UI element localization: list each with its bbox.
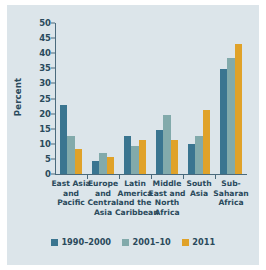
y-axis-tick-labels: 05101520253035404550 [21,23,51,175]
bar [203,110,211,174]
legend-swatch-icon [122,239,129,246]
x-category-label-line: Latin [124,179,146,188]
legend-item[interactable]: 2011 [182,237,215,247]
legend-label: 1990–2000 [61,237,111,247]
x-category-label-line: Asia [94,208,112,217]
plot-area [55,23,247,175]
y-tick-label: 15 [21,124,51,134]
bar [220,69,228,174]
bar [156,130,164,174]
legend-item[interactable]: 1990–2000 [51,237,111,247]
y-tick-label: 35 [21,63,51,73]
x-category-label: Sub-SaharanAfrica [211,179,251,208]
y-tick-label: 50 [21,18,51,28]
x-category-label-line: Africa [218,198,243,207]
x-category-label-line: Africa [154,208,179,217]
bar [227,58,235,174]
bar-group [87,23,119,174]
y-tick-label: 40 [21,48,51,58]
bar [67,136,75,174]
x-category-label-line: Europe [88,179,118,188]
bar-group [183,23,215,174]
legend-label: 2011 [192,237,215,247]
bar [60,105,68,174]
legend-item[interactable]: 2001–10 [122,237,171,247]
bar [131,146,139,174]
bar [124,136,132,174]
bar-group [151,23,183,174]
x-category-label-line: Middle [153,179,182,188]
bar [139,140,147,174]
x-category-label-line: Central [87,198,118,207]
y-tick-label: 45 [21,33,51,43]
bar-group [55,23,87,174]
x-category-label-line: South [186,179,211,188]
bar [195,136,203,174]
chart-legend: 1990–20002001–102011 [7,237,259,247]
x-category-label-line: Sub- [221,179,240,188]
x-axis-category-labels: East AsiaandPacificEuropeandCentralAsiaL… [55,179,247,231]
bar [235,44,243,174]
bar [163,115,171,174]
bar-group [215,23,247,174]
bar [92,161,100,174]
bar [188,144,196,175]
y-tick-label: 30 [21,78,51,88]
chart-figure: Percent 05101520253035404550 East Asiaan… [7,5,259,265]
bar-group [119,23,151,174]
x-category-label-line: Pacific [57,198,85,207]
y-tick-label: 10 [21,139,51,149]
y-tick-label: 0 [21,169,51,179]
bar [107,157,115,174]
x-category-label-line: Saharan [213,189,248,198]
legend-swatch-icon [51,239,58,246]
y-tick-label: 5 [21,154,51,164]
x-category-label-line: and [95,189,111,198]
legend-swatch-icon [182,239,189,246]
bar [75,149,83,174]
legend-label: 2001–10 [133,237,171,247]
bar [99,153,107,174]
y-tick-label: 25 [21,94,51,104]
x-category-label-line: and [63,189,79,198]
bar [171,140,179,174]
x-category-label-line: North [155,198,179,207]
y-tick-label: 20 [21,109,51,119]
x-category-label-line: Asia [190,189,208,198]
